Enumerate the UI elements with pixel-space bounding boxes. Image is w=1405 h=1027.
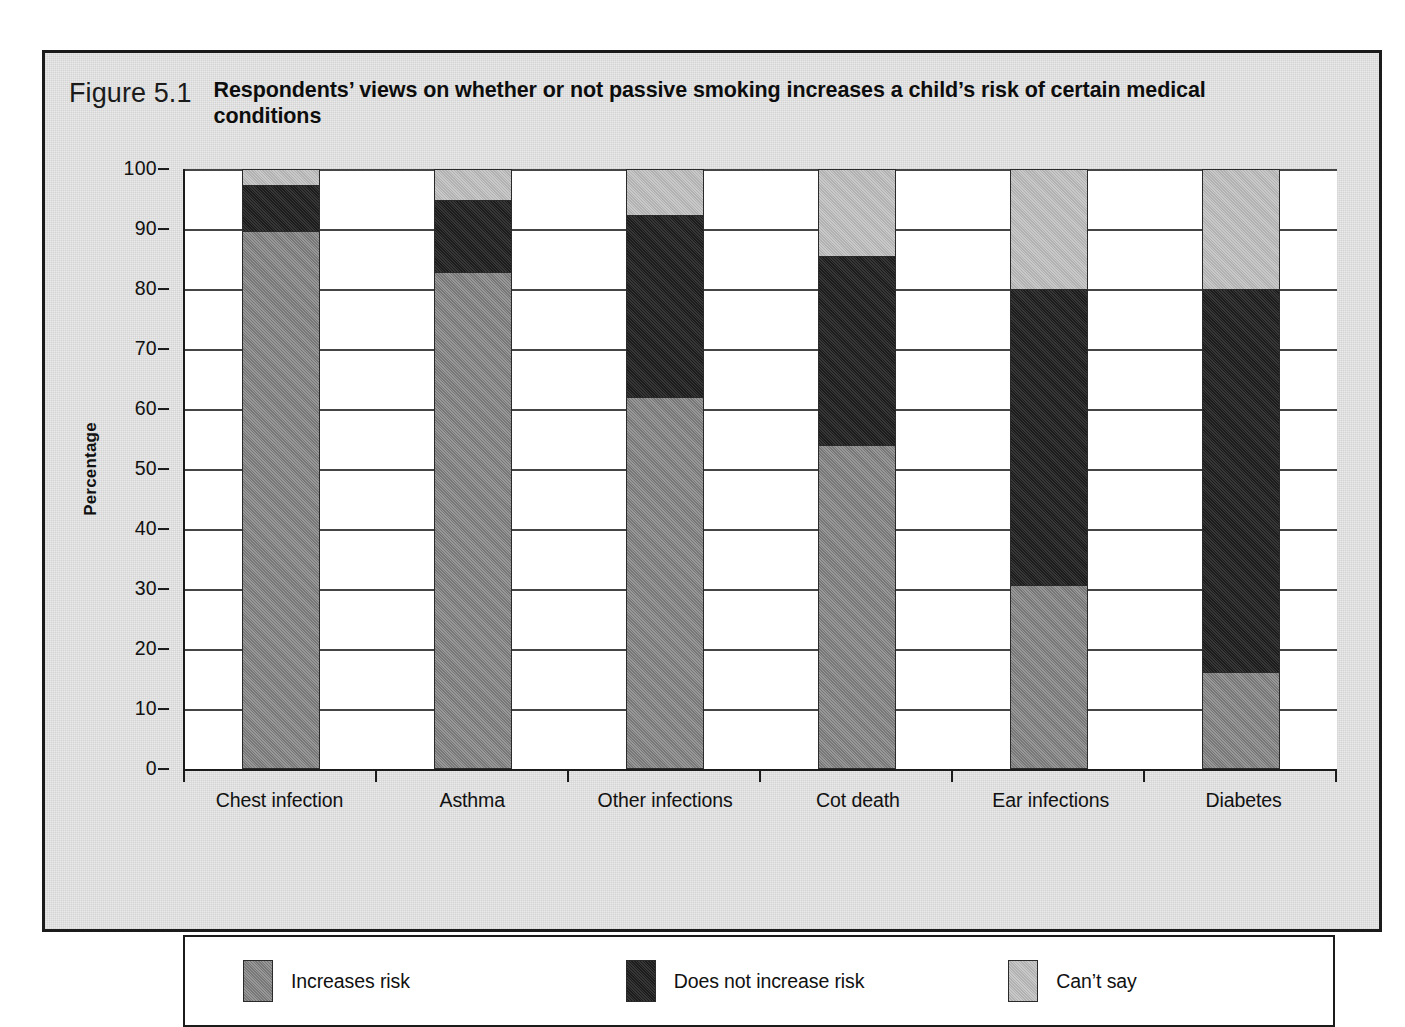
bar-segment (1203, 289, 1279, 672)
bar-segment (627, 215, 703, 399)
y-axis-tick-label: 50 (135, 457, 157, 480)
bar-segment (1011, 170, 1087, 289)
legend-label: Does not increase risk (674, 970, 865, 993)
bar-slot (1145, 169, 1337, 769)
figure-title: Respondents’ views on whether or not pas… (214, 77, 1224, 129)
x-axis-tick-mark (183, 771, 185, 782)
x-axis-category-label: Other infections (569, 789, 762, 812)
y-axis-tick-label: 0 (146, 757, 157, 780)
y-axis-tick-mark (158, 768, 169, 770)
legend-swatch-icon (243, 960, 273, 1002)
legend-swatch-icon (1008, 960, 1038, 1002)
legend-item[interactable]: Increases risk (185, 960, 568, 1002)
chart-legend: Increases riskDoes not increase riskCan’… (183, 935, 1335, 1027)
y-axis-tick-mark (158, 468, 169, 470)
stacked-bar[interactable] (818, 169, 896, 769)
plot-area (183, 169, 1337, 771)
legend-swatch-icon (626, 960, 656, 1002)
figure-number: Figure 5.1 (69, 77, 192, 109)
figure-header: Figure 5.1 Respondents’ views on whether… (69, 77, 1359, 129)
y-axis-ticklabels: 1009080706050403020100 (103, 169, 169, 769)
bar-segment (819, 256, 895, 446)
bar-segment (435, 273, 511, 768)
y-axis-tick-mark (158, 348, 169, 350)
y-axis-tick-label: 100 (124, 157, 157, 180)
x-axis-category-label: Chest infection (183, 789, 376, 812)
bar-segment (435, 200, 511, 274)
legend-item[interactable]: Does not increase risk (568, 960, 951, 1002)
figure-frame: Figure 5.1 Respondents’ views on whether… (42, 50, 1382, 932)
bar-slot (569, 169, 761, 769)
bar-slot (953, 169, 1145, 769)
bar-segment (243, 185, 319, 232)
y-axis-tick-label: 70 (135, 337, 157, 360)
stacked-bar[interactable] (1202, 169, 1280, 769)
x-axis-tick-mark (1335, 771, 1337, 782)
y-axis-tick-label: 30 (135, 577, 157, 600)
bar-segment (243, 232, 319, 768)
x-axis-tick-mark (1143, 771, 1145, 782)
bar-group (185, 169, 1337, 769)
y-axis-tick-label: 10 (135, 697, 157, 720)
bar-slot (185, 169, 377, 769)
chart-plot-wrapper: Percentage 1009080706050403020100 Chest … (45, 169, 1379, 769)
legend-label: Can’t say (1056, 970, 1136, 993)
bar-slot (377, 169, 569, 769)
x-axis-category-label: Cot death (761, 789, 954, 812)
x-axis-tick-mark (567, 771, 569, 782)
y-axis-tick-label: 40 (135, 517, 157, 540)
y-axis-tick-mark (158, 708, 169, 710)
x-axis-category-label: Asthma (376, 789, 569, 812)
bar-segment (1011, 289, 1087, 586)
bar-segment (1203, 170, 1279, 289)
x-axis-tick-mark (375, 771, 377, 782)
y-axis-tick-mark (158, 588, 169, 590)
y-axis-tick-mark (158, 228, 169, 230)
y-axis-tick-label: 20 (135, 637, 157, 660)
y-axis-tick-label: 60 (135, 397, 157, 420)
bar-segment (819, 446, 895, 768)
stacked-bar[interactable] (626, 169, 704, 769)
bar-segment (1011, 586, 1087, 768)
y-axis-tick-label: 90 (135, 217, 157, 240)
bar-slot (761, 169, 953, 769)
x-axis: Chest infectionAsthmaOther infectionsCot… (183, 771, 1340, 827)
bar-segment (435, 170, 511, 200)
x-axis-tick-mark (951, 771, 953, 782)
y-axis-tick-mark (158, 168, 169, 170)
legend-item[interactable]: Can’t say (950, 960, 1333, 1002)
y-axis-tick-label: 80 (135, 277, 157, 300)
x-axis-category-label: Ear infections (954, 789, 1147, 812)
bar-segment (1203, 673, 1279, 768)
stacked-bar[interactable] (434, 169, 512, 769)
x-axis-category-label: Diabetes (1147, 789, 1340, 812)
y-axis-tick-mark (158, 528, 169, 530)
bar-segment (627, 170, 703, 215)
x-axis-tick-mark (759, 771, 761, 782)
stacked-bar[interactable] (1010, 169, 1088, 769)
legend-label: Increases risk (291, 970, 410, 993)
y-axis-tick-mark (158, 408, 169, 410)
y-axis-tick-mark (158, 288, 169, 290)
bar-segment (627, 398, 703, 768)
bar-segment (243, 170, 319, 185)
x-axis-labels: Chest infectionAsthmaOther infectionsCot… (183, 789, 1340, 812)
y-axis-title: Percentage (81, 422, 101, 516)
y-axis-tick-mark (158, 648, 169, 650)
bar-segment (819, 170, 895, 256)
stacked-bar[interactable] (242, 169, 320, 769)
